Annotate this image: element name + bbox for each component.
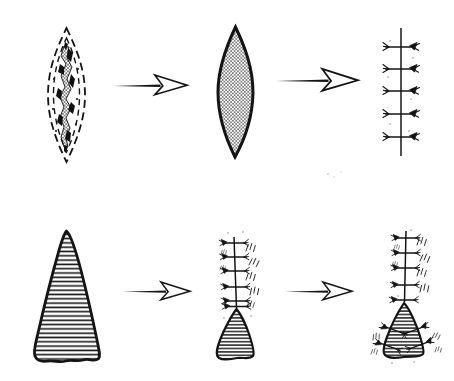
residual-triangle-shape [217,309,254,360]
scratch-marks [435,347,442,353]
closure-line [405,231,407,302]
triangular-wound-shape [34,231,99,362]
fully-sutured-repair-icon [371,229,442,363]
arrow-right-icon [123,282,190,300]
closure-line [234,237,237,308]
scratch-marks [420,254,430,263]
partially-sutured-defect-icon [217,231,260,359]
arrow-right-icon [113,75,187,95]
scratch-marks [394,245,400,250]
surgical-steps-diagram [0,0,454,381]
scratch-marks [417,238,426,246]
arrow-right-icon [276,69,358,91]
excised-lens-shape [218,27,253,157]
hatched-elliptical-defect-icon [218,27,253,157]
interrupted-suture-line-icon [383,28,420,156]
scratch-marks [249,258,259,267]
flap-triangle-shape [384,303,424,358]
scratch-marks [246,273,255,281]
lesion-with-dashed-excision-outline-icon [48,28,85,162]
scratch-marks [246,244,255,252]
scratch-marks [419,284,429,293]
arrow-right-icon [285,282,352,300]
paper-speckles [327,171,342,178]
illustration-canvas [0,0,454,381]
scratch-marks [432,332,440,340]
scratch-marks [249,287,259,296]
scratch-marks [371,349,378,355]
hatched-triangular-defect-icon [34,231,99,362]
